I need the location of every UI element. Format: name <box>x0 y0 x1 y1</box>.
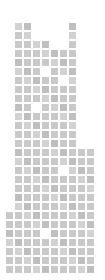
grid-tile <box>60 212 67 219</box>
grid-tile <box>69 122 76 129</box>
grid-tile <box>78 266 85 273</box>
grid-tile <box>42 140 49 147</box>
grid-tile <box>33 203 40 210</box>
grid-tile <box>60 203 67 210</box>
grid-tile <box>42 248 49 255</box>
grid-tile <box>42 176 49 183</box>
grid-tile <box>42 194 49 201</box>
grid-tile <box>33 140 40 147</box>
grid-tile <box>24 185 31 192</box>
grid-tile <box>69 167 76 174</box>
grid-tile <box>60 185 67 192</box>
grid-tile <box>6 221 13 228</box>
grid-tile <box>24 23 31 30</box>
grid-tile <box>33 212 40 219</box>
grid-tile <box>69 50 76 57</box>
grid-tile <box>87 185 94 192</box>
grid-tile <box>15 41 22 48</box>
grid-tile <box>33 77 40 84</box>
grid-tile <box>33 122 40 129</box>
grid-tile <box>15 266 22 273</box>
grid-tile <box>42 113 49 120</box>
grid-tile <box>60 50 67 57</box>
grid-tile <box>24 230 31 237</box>
grid-tile <box>87 266 94 273</box>
grid-tile <box>69 32 76 39</box>
grid-tile <box>15 248 22 255</box>
grid-tile <box>60 140 67 147</box>
grid-tile <box>24 203 31 210</box>
grid-tile <box>42 203 49 210</box>
grid-tile <box>6 230 13 237</box>
grid-tile <box>42 239 49 246</box>
grid-tile <box>24 239 31 246</box>
grid-tile <box>33 68 40 75</box>
grid-tile <box>15 59 22 66</box>
grid-tile <box>69 248 76 255</box>
grid-tile <box>60 95 67 102</box>
grid-tile <box>33 239 40 246</box>
grid-tile <box>78 257 85 264</box>
grid-tile <box>69 194 76 201</box>
grid-tile <box>24 68 31 75</box>
grid-tile <box>42 212 49 219</box>
grid-tile <box>24 167 31 174</box>
grid-tile <box>24 77 31 84</box>
grid-tile <box>69 41 76 48</box>
grid-tile <box>42 167 49 174</box>
grid-tile <box>24 257 31 264</box>
grid-tile <box>78 158 85 165</box>
grid-tile <box>15 239 22 246</box>
grid-tile <box>15 194 22 201</box>
grid-tile <box>78 185 85 192</box>
grid-tile <box>24 221 31 228</box>
grid-tile <box>87 221 94 228</box>
grid-tile <box>51 122 58 129</box>
grid-tile <box>24 32 31 39</box>
grid-tile <box>42 122 49 129</box>
grid-tile <box>87 257 94 264</box>
grid-tile <box>24 248 31 255</box>
grid-tile <box>69 113 76 120</box>
grid-tile <box>51 95 58 102</box>
grid-tile <box>51 194 58 201</box>
grid-tile <box>69 59 76 66</box>
grid-tile <box>51 140 58 147</box>
grid-tile <box>15 221 22 228</box>
grid-tile <box>33 41 40 48</box>
grid-tile <box>15 113 22 120</box>
grid-tile <box>51 212 58 219</box>
grid-tile <box>33 176 40 183</box>
grid-tile <box>51 86 58 93</box>
grid-tile <box>24 194 31 201</box>
grid-tile <box>78 230 85 237</box>
grid-tile <box>78 248 85 255</box>
grid-tile <box>51 77 58 84</box>
grid-tile <box>42 41 49 48</box>
grid-tile <box>69 239 76 246</box>
grid-tile <box>78 176 85 183</box>
grid-tile <box>69 185 76 192</box>
grid-tile <box>69 140 76 147</box>
grid-tile <box>51 104 58 111</box>
grid-tile <box>15 50 22 57</box>
grid-tile <box>60 104 67 111</box>
grid-tile <box>78 221 85 228</box>
grid-tile <box>15 95 22 102</box>
grid-tile <box>69 95 76 102</box>
grid-tile <box>87 212 94 219</box>
grid-tile <box>69 266 76 273</box>
grid-tile <box>69 176 76 183</box>
grid-tile <box>15 203 22 210</box>
grid-tile <box>60 131 67 138</box>
grid-tile <box>69 131 76 138</box>
grid-tile <box>24 149 31 156</box>
grid-tile <box>15 104 22 111</box>
grid-tile <box>87 248 94 255</box>
grid-tile <box>24 140 31 147</box>
grid-tile <box>60 86 67 93</box>
grid-tile <box>51 203 58 210</box>
grid-tile <box>78 167 85 174</box>
grid-tile <box>60 158 67 165</box>
grid-tile <box>60 194 67 201</box>
